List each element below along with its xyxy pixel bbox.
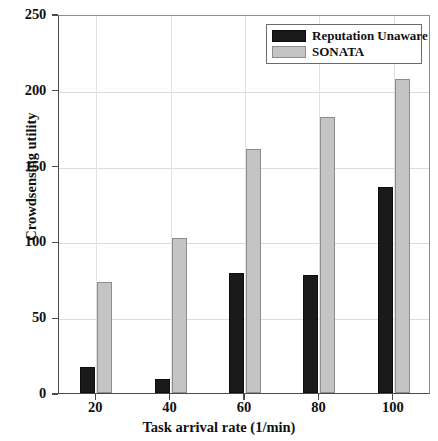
- x-axis-tick-label: 60: [214, 399, 274, 416]
- y-axis-tick-mark: [52, 318, 58, 319]
- y-axis-tick-label: 50: [32, 309, 46, 326]
- bar-reputation-unaware-60: [229, 273, 244, 393]
- x-axis-tick-label: 80: [288, 399, 348, 416]
- y-axis-tick-mark: [52, 166, 58, 167]
- plot-area: [58, 15, 430, 394]
- bar-reputation-unaware-40: [155, 379, 170, 393]
- chart-legend: Reputation UnawareSONATA: [266, 24, 422, 64]
- legend-item[interactable]: Reputation Unaware: [272, 28, 417, 43]
- gridline-horizontal: [59, 243, 429, 244]
- legend-label: Reputation Unaware: [312, 29, 428, 42]
- bar-sonata-100: [395, 79, 410, 393]
- legend-swatch-icon: [272, 46, 306, 58]
- x-axis-title: Task arrival rate (1/min): [0, 419, 438, 436]
- y-axis-tick-label: 0: [39, 385, 46, 402]
- legend-item[interactable]: SONATA: [272, 44, 417, 59]
- y-axis-tick-label: 150: [25, 158, 46, 175]
- gridline-horizontal: [59, 319, 429, 320]
- y-axis-tick-label: 100: [25, 233, 46, 250]
- legend-label: SONATA: [312, 45, 364, 58]
- y-axis-tick-mark: [52, 90, 58, 91]
- bar-reputation-unaware-100: [378, 187, 393, 393]
- bar-reputation-unaware-20: [80, 367, 95, 393]
- x-axis-tick-label: 20: [65, 399, 125, 416]
- legend-swatch-icon: [272, 30, 306, 42]
- bar-sonata-40: [172, 238, 187, 393]
- bar-sonata-20: [97, 282, 112, 393]
- x-axis-tick-label: 40: [140, 399, 200, 416]
- figure-canvas: Crowdsensing utility Task arrival rate (…: [0, 0, 438, 441]
- y-axis-tick-label: 250: [25, 6, 46, 23]
- y-axis-tick-label: 200: [25, 82, 46, 99]
- x-axis-tick-label: 100: [363, 399, 423, 416]
- bar-reputation-unaware-80: [303, 275, 318, 393]
- y-axis-tick-mark: [52, 14, 58, 15]
- bar-sonata-80: [320, 117, 335, 393]
- y-axis-tick-mark: [52, 393, 58, 394]
- y-axis-tick-mark: [52, 242, 58, 243]
- bar-sonata-60: [246, 149, 261, 393]
- gridline-horizontal: [59, 168, 429, 169]
- gridline-horizontal: [59, 92, 429, 93]
